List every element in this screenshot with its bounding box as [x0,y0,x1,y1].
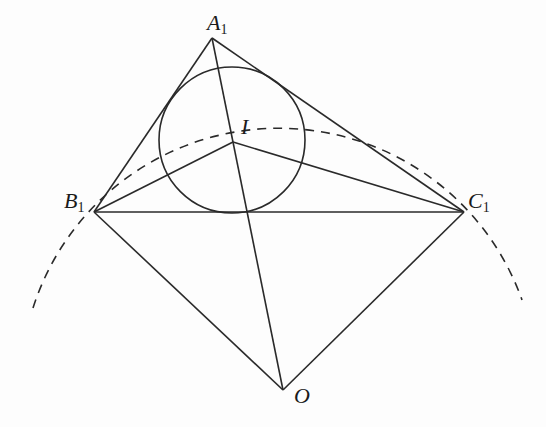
label-o: O [294,385,310,407]
segment-c1-o [283,212,464,390]
diagram-canvas: A1 B1 C1 I O [0,0,546,427]
segment-a1-c1 [212,38,464,212]
label-b1: B1 [64,190,84,215]
segment-a1-o [212,38,283,390]
label-c1: C1 [468,190,490,215]
label-i: I [241,116,248,138]
label-a1: A1 [207,12,227,37]
segment-b1-o [94,212,283,390]
segment-a1-b1 [94,38,212,212]
segment-i-b1 [94,142,233,212]
